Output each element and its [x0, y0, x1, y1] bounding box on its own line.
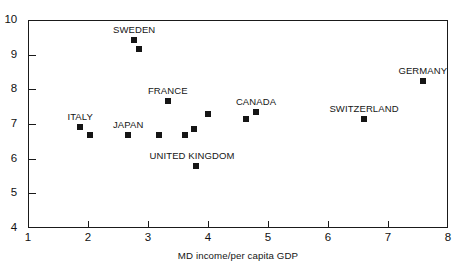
- data-point: [420, 78, 426, 84]
- data-point: [193, 163, 199, 169]
- y-tick-label: 7: [0, 117, 17, 129]
- data-point: [191, 126, 197, 132]
- x-tick-label: 2: [68, 231, 108, 243]
- data-point: [156, 132, 162, 138]
- data-point-label: SWITZERLAND: [329, 103, 398, 114]
- y-tick-mark: [28, 124, 36, 125]
- plot-area-frame: [28, 20, 448, 228]
- data-point: [131, 37, 137, 43]
- x-axis-title: MD income/per capita GDP: [178, 250, 298, 261]
- y-tick-mark: [28, 159, 36, 160]
- x-tick-label: 3: [128, 231, 168, 243]
- data-point: [77, 124, 83, 130]
- x-tick-label: 6: [308, 231, 348, 243]
- data-point-label: SWEDEN: [113, 24, 155, 35]
- x-tick-mark: [88, 221, 89, 228]
- x-tick-mark: [208, 221, 209, 228]
- data-point-label: ITALY: [67, 111, 93, 122]
- y-tick-label: 9: [0, 48, 17, 60]
- data-point: [205, 111, 211, 117]
- x-tick-label: 4: [188, 231, 228, 243]
- data-point-label: UNITED KINGDOM: [150, 150, 235, 161]
- x-tick-label: 8: [428, 231, 468, 243]
- y-tick-mark: [28, 55, 36, 56]
- data-point-label: FRANCE: [148, 85, 188, 96]
- data-point: [136, 46, 142, 52]
- data-point-label: JAPAN: [113, 119, 143, 130]
- data-point: [182, 132, 188, 138]
- y-tick-label: 8: [0, 82, 17, 94]
- scatter-chart: 45678910 12345678 SWEDENGERMANYFRANCECAN…: [0, 0, 469, 274]
- data-point: [87, 132, 93, 138]
- x-tick-mark: [268, 221, 269, 228]
- data-point: [253, 109, 259, 115]
- x-tick-mark: [388, 221, 389, 228]
- data-point-label: CANADA: [236, 96, 276, 107]
- y-tick-label: 10: [0, 13, 17, 25]
- y-tick-label: 5: [0, 186, 17, 198]
- y-tick-mark: [28, 89, 36, 90]
- data-point: [125, 132, 131, 138]
- x-tick-mark: [148, 221, 149, 228]
- x-tick-label: 5: [248, 231, 288, 243]
- y-tick-label: 6: [0, 152, 17, 164]
- x-tick-label: 1: [8, 231, 48, 243]
- x-tick-mark: [328, 221, 329, 228]
- x-tick-label: 7: [368, 231, 408, 243]
- data-point: [165, 98, 171, 104]
- data-point-label: GERMANY: [398, 65, 447, 76]
- data-point: [243, 116, 249, 122]
- y-tick-mark: [28, 193, 36, 194]
- data-point: [361, 116, 367, 122]
